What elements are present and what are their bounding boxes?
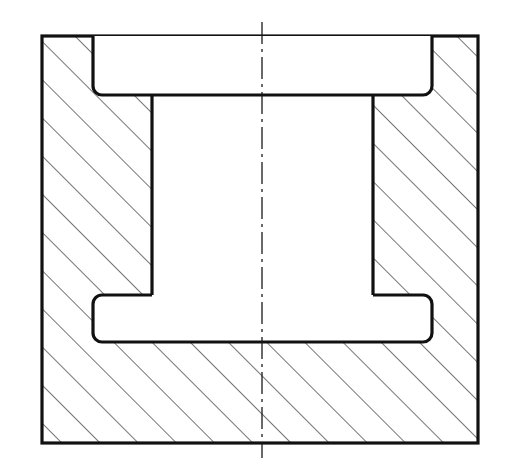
section-view-drawing xyxy=(0,0,509,476)
section-hatch-fill xyxy=(42,36,478,443)
drawing-canvas xyxy=(0,0,509,476)
